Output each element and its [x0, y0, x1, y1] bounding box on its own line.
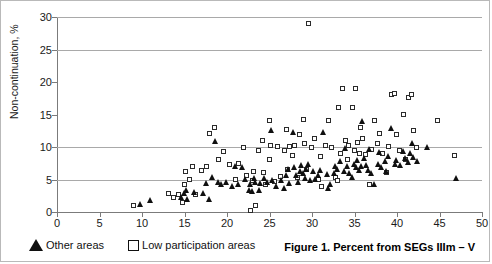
marker-square: [329, 145, 334, 150]
marker-triangle: [305, 161, 311, 167]
marker-triangle: [334, 166, 340, 172]
marker-triangle: [385, 153, 391, 159]
marker-triangle: [290, 129, 296, 135]
y-tick-label: 25: [40, 44, 52, 55]
marker-triangle: [453, 175, 459, 181]
marker-triangle: [376, 149, 382, 155]
marker-square: [377, 131, 382, 136]
marker-triangle: [256, 187, 262, 193]
marker-square: [401, 112, 406, 117]
marker-square: [256, 148, 261, 153]
y-tick: [52, 50, 57, 51]
marker-triangle: [349, 174, 355, 180]
marker-triangle: [324, 171, 330, 177]
marker-triangle: [303, 166, 309, 172]
marker-triangle: [295, 179, 301, 185]
marker-triangle: [268, 127, 274, 133]
marker-square: [323, 143, 328, 148]
marker-triangle: [184, 196, 190, 202]
marker-square: [267, 157, 272, 162]
marker-triangle: [191, 189, 197, 195]
marker-square: [319, 184, 324, 189]
open-square-icon: [128, 240, 139, 251]
y-tick: [52, 115, 57, 116]
marker-square: [375, 141, 380, 146]
y-tick-label: 30: [40, 12, 52, 23]
marker-square: [216, 157, 221, 162]
marker-square: [336, 105, 341, 110]
marker-square: [309, 145, 314, 150]
legend-label-low-participation-areas: Low participation areas: [142, 239, 255, 251]
marker-square: [353, 86, 358, 91]
marker-triangle: [361, 155, 367, 161]
marker-triangle: [414, 158, 420, 164]
marker-square: [358, 125, 363, 130]
marker-square: [297, 132, 302, 137]
marker-square: [335, 178, 340, 183]
marker-square: [312, 136, 317, 141]
marker-square: [268, 143, 273, 148]
x-tick-label: 50: [476, 218, 488, 229]
marker-square: [207, 131, 212, 136]
marker-triangle: [249, 188, 255, 194]
marker-triangle: [229, 183, 235, 189]
marker-triangle: [206, 196, 212, 202]
marker-square: [392, 91, 397, 96]
marker-triangle: [320, 129, 326, 135]
marker-square: [261, 170, 266, 175]
marker-triangle: [371, 181, 377, 187]
legend-label-other-areas: Other areas: [46, 239, 104, 251]
marker-square: [267, 118, 272, 123]
x-tick-label: 30: [306, 218, 318, 229]
marker-square: [253, 203, 258, 208]
marker-triangle: [327, 181, 333, 187]
marker-triangle: [273, 183, 279, 189]
marker-square: [260, 138, 265, 143]
y-axis-line: [57, 17, 58, 213]
marker-triangle: [368, 170, 374, 176]
marker-square: [350, 105, 355, 110]
marker-square: [326, 118, 331, 123]
marker-triangle: [285, 166, 291, 172]
marker-triangle: [397, 162, 403, 168]
figure-caption: Figure 1. Percent from SEGs IIIm – V: [284, 241, 475, 253]
marker-triangle: [366, 146, 372, 152]
marker-square: [452, 153, 457, 158]
y-tick-label: 5: [46, 174, 52, 185]
x-tick-label: 40: [391, 218, 403, 229]
marker-square: [409, 92, 414, 97]
gridline: [57, 17, 482, 18]
y-tick-label: 20: [40, 77, 52, 88]
marker-triangle: [281, 185, 287, 191]
marker-square: [212, 125, 217, 130]
marker-square: [292, 143, 297, 148]
marker-triangle: [354, 157, 360, 163]
marker-triangle: [200, 190, 206, 196]
marker-triangle: [183, 187, 189, 193]
marker-square: [394, 132, 399, 137]
marker-square: [284, 127, 289, 132]
marker-triangle: [405, 159, 411, 165]
x-tick-label: 5: [96, 218, 102, 229]
marker-triangle: [315, 172, 321, 178]
y-tick-label: 10: [40, 142, 52, 153]
marker-triangle: [388, 125, 394, 131]
marker-triangle: [235, 181, 241, 187]
marker-square: [204, 164, 209, 169]
x-tick-label: 35: [348, 218, 360, 229]
marker-square: [338, 151, 343, 156]
y-tick: [52, 82, 57, 83]
marker-square: [275, 144, 280, 149]
filled-triangle-icon: [29, 239, 43, 251]
legend-item-other-areas: Other areas: [29, 239, 104, 251]
marker-triangle: [400, 148, 406, 154]
y-tick: [52, 180, 57, 181]
marker-triangle: [359, 118, 365, 124]
y-axis-title: Non-continuation, %: [8, 24, 20, 119]
x-tick-label: 10: [136, 218, 148, 229]
marker-square: [248, 208, 253, 213]
marker-triangle: [212, 138, 218, 144]
marker-square: [190, 164, 195, 169]
marker-square: [301, 117, 306, 122]
y-tick: [52, 17, 57, 18]
